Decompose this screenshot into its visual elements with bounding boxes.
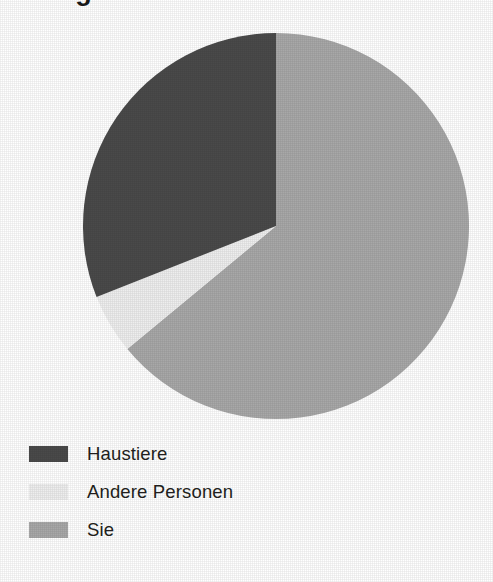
legend-label-haustiere: Haustiere (87, 445, 168, 464)
legend-swatch-sie (29, 522, 68, 538)
legend-swatch-haustiere (29, 446, 68, 462)
legend-label-sie: Sie (87, 521, 114, 540)
chart-title-clip: Wer gibt Ihnen das meiste Feedback? (0, 0, 493, 7)
pie-slice-group (83, 33, 469, 419)
legend-swatch-andere-personen (29, 484, 68, 500)
legend-label-andere-personen: Andere Personen (87, 483, 233, 502)
legend-item-haustiere[interactable]: Haustiere (29, 435, 359, 473)
pie-chart-figure: Wer gibt Ihnen das meiste Feedback? Haus… (0, 0, 493, 582)
chart-title: Wer gibt Ihnen das meiste Feedback? (18, 0, 493, 7)
pie-svg (70, 20, 482, 432)
legend-item-andere-personen[interactable]: Andere Personen (29, 473, 359, 511)
legend-item-sie[interactable]: Sie (29, 511, 359, 549)
chart-legend: Haustiere Andere Personen Sie (29, 435, 359, 549)
pie-chart-plot (70, 20, 482, 432)
